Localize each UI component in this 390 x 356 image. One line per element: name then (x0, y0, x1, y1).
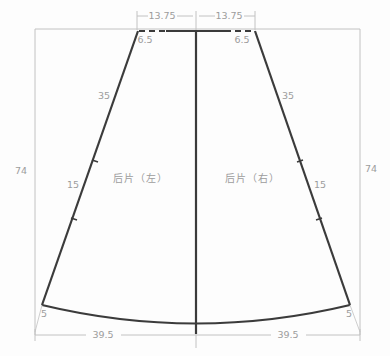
dimension-frame (35, 29, 360, 335)
dim-label-top-width-right: 13.75 (215, 10, 242, 21)
dim-label-top-notch-right: 6.5 (234, 34, 249, 45)
piece-label-back-right: 后片（右） (225, 172, 280, 184)
dim-label-hem-rise-right: 5 (346, 308, 352, 319)
back-piece-pattern-diagram: 13.75 13.75 5 5 (0, 0, 390, 356)
dim-label-side-lower-right: 15 (314, 179, 326, 190)
dim-label-side-upper-right: 35 (282, 90, 294, 101)
side-seam-right (255, 31, 350, 305)
dim-label-height-right: 74 (365, 163, 377, 174)
dim-label-side-lower-left: 15 (67, 179, 79, 190)
piece-label-back-left: 后片（左） (113, 172, 168, 184)
dim-label-top-width-left: 13.75 (148, 10, 175, 21)
dim-label-hem-width-right: 39.5 (277, 329, 298, 340)
dim-label-hem-width-left: 39.5 (92, 329, 113, 340)
pattern-outline (42, 31, 350, 348)
hem-rise-guides: 5 5 (35, 305, 360, 332)
bottom-dimension: 39.5 39.5 (35, 329, 360, 341)
side-seam-left (42, 31, 138, 305)
pattern-draft-canvas: 13.75 13.75 5 5 (0, 0, 390, 356)
notch-right-upper (297, 160, 303, 162)
dim-label-hem-rise-left: 5 (41, 308, 47, 319)
dim-label-side-upper-left: 35 (98, 90, 110, 101)
top-dimension: 13.75 13.75 (137, 10, 255, 30)
dim-label-height-left: 74 (15, 165, 27, 176)
dim-label-top-notch-left: 6.5 (137, 34, 152, 45)
